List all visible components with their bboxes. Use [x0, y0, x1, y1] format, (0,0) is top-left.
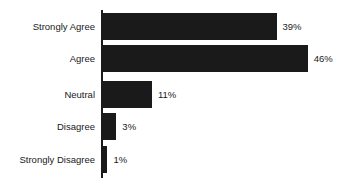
category-label: Strongly Agree — [0, 21, 95, 32]
category-label: Neutral — [0, 89, 95, 100]
bar — [103, 146, 107, 173]
chart-row: Strongly Disagree1% — [0, 146, 342, 173]
chart-row: Strongly Agree39% — [0, 13, 342, 40]
bar — [103, 81, 152, 108]
bar-value-label: 46% — [314, 53, 333, 64]
bar-track — [103, 113, 116, 140]
category-label: Strongly Disagree — [0, 154, 95, 165]
bar — [103, 13, 277, 40]
bar-track — [103, 146, 107, 173]
category-label: Disagree — [0, 121, 95, 132]
bar-chart-figure: Strongly Agree39%Agree46%Neutral11%Disag… — [0, 0, 342, 188]
bar-value-label: 3% — [122, 121, 136, 132]
bar-value-label: 11% — [158, 89, 176, 100]
bar-track — [103, 81, 152, 108]
bar-track — [103, 45, 308, 72]
chart-plot-area: Strongly Agree39%Agree46%Neutral11%Disag… — [0, 0, 342, 188]
chart-row: Agree46% — [0, 45, 342, 72]
category-label: Agree — [0, 53, 95, 64]
bar-value-label: 39% — [283, 21, 302, 32]
bar — [103, 113, 116, 140]
bar — [103, 45, 308, 72]
chart-row: Disagree3% — [0, 113, 342, 140]
bar-track — [103, 13, 277, 40]
bar-value-label: 1% — [113, 154, 127, 165]
chart-row: Neutral11% — [0, 81, 342, 108]
